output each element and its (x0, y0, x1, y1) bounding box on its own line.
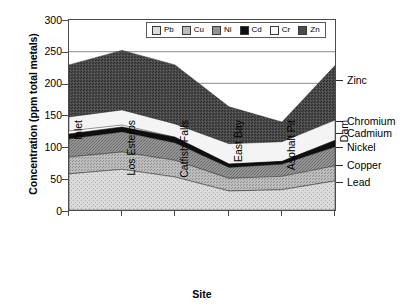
y-tick-label-150: 150 (32, 110, 62, 120)
x-tick-mark-los-esteros (121, 211, 122, 216)
y-tick-label-50: 50 (32, 174, 62, 184)
x-tick-label-asphalt-pit: Asphalt Pit (286, 120, 296, 216)
x-tick-label-dam: Dam (339, 120, 349, 216)
legend-label-zn: Zn (310, 26, 319, 34)
annotation-label-nickel: Nickel (347, 142, 376, 152)
x-tick-mark-catfish-falls (174, 211, 175, 216)
chart-legend[interactable]: Pb Cu Ni Cd Cr Zn (146, 22, 326, 38)
legend-label-ni: Ni (224, 26, 232, 34)
legend-item-cr[interactable]: Cr (270, 26, 290, 35)
x-tick-label-east-bay: East Bay (233, 120, 243, 216)
legend-label-cu: Cu (194, 26, 204, 34)
legend-swatch-cr-icon (270, 26, 279, 35)
annotation-label-copper: Copper (347, 160, 381, 170)
x-tick-label-inlet: Inlet (73, 120, 83, 216)
legend-swatch-ni-icon (212, 26, 221, 35)
legend-label-pb: Pb (164, 26, 174, 34)
legend-item-ni[interactable]: Ni (212, 26, 232, 35)
y-tick-label-250: 250 (32, 46, 62, 56)
y-tick-label-0: 0 (32, 206, 62, 216)
x-tick-mark-east-bay (228, 211, 229, 216)
x-tick-mark-dam (334, 211, 335, 216)
annotation-label-cadmium: Cadmium (347, 128, 392, 138)
legend-swatch-zn-icon (298, 26, 307, 35)
legend-label-cr: Cr (282, 26, 290, 34)
legend-item-zn[interactable]: Zn (298, 26, 319, 35)
x-tick-mark-inlet (68, 211, 69, 216)
legend-swatch-pb-icon (152, 26, 161, 35)
annotation-tick-zinc (336, 80, 343, 81)
y-tick-label-100: 100 (32, 142, 62, 152)
y-tick-label-200: 200 (32, 78, 62, 88)
legend-swatch-cu-icon (182, 26, 191, 35)
x-axis-title: Site (68, 288, 336, 300)
legend-item-cd[interactable]: Cd (240, 26, 262, 35)
legend-item-pb[interactable]: Pb (152, 26, 174, 35)
annotation-label-lead: Lead (347, 177, 370, 187)
legend-swatch-cd-icon (240, 26, 249, 35)
legend-item-cu[interactable]: Cu (182, 26, 204, 35)
x-tick-label-los-esteros: Los Esteros (126, 120, 136, 216)
y-tick-label-300: 300 (32, 15, 62, 25)
legend-label-cd: Cd (252, 26, 262, 34)
annotation-label-zinc: Zinc (347, 75, 367, 85)
annotation-label-chromium: Chromium (347, 116, 395, 126)
x-tick-mark-asphalt-pit (281, 211, 282, 216)
chart-figure: Concentration (ppm total metals) 300 250… (0, 0, 417, 308)
x-tick-label-catfish-falls: Catfish Falls (179, 120, 189, 216)
